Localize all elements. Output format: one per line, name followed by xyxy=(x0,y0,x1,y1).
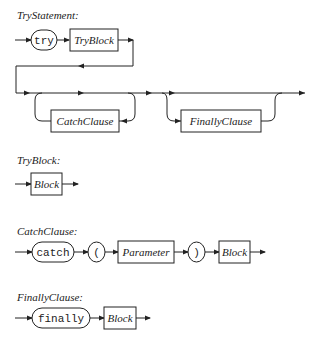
svg-text:): ) xyxy=(193,247,200,259)
svg-text:TryBlock: TryBlock xyxy=(74,34,115,46)
svg-text:try: try xyxy=(34,35,54,47)
rule-finallyclause: FinallyClause: finally Block xyxy=(15,291,150,329)
nonterminal-catchclause: CatchClause xyxy=(51,110,119,132)
svg-text:finally: finally xyxy=(38,313,85,325)
svg-text:CatchClause: CatchClause xyxy=(57,115,114,127)
nonterminal-block: Block xyxy=(219,241,250,263)
svg-text:Block: Block xyxy=(222,246,248,258)
svg-text:Parameter: Parameter xyxy=(121,246,170,258)
rule-title-finallyclause: FinallyClause: xyxy=(16,291,83,303)
terminal-close-paren: ) xyxy=(188,242,205,262)
rule-title-catchclause: CatchClause: xyxy=(17,225,78,237)
svg-text:(: ( xyxy=(93,247,100,259)
rule-try-statement: TryStatement: try TryBlock CatchClause xyxy=(15,9,305,132)
rule-title-try-statement: TryStatement: xyxy=(17,9,79,21)
syntax-diagram: TryStatement: try TryBlock CatchClause xyxy=(0,0,311,344)
nonterminal-block: Block xyxy=(31,173,62,195)
nonterminal-finallyclause: FinallyClause xyxy=(181,110,261,132)
svg-text:catch: catch xyxy=(36,247,69,259)
terminal-try: try xyxy=(31,30,57,50)
svg-text:FinallyClause: FinallyClause xyxy=(189,115,252,127)
rule-catchclause: CatchClause: catch ( Parameter ) Block xyxy=(15,225,265,263)
nonterminal-block: Block xyxy=(104,307,136,329)
nonterminal-parameter: Parameter xyxy=(118,241,174,263)
terminal-open-paren: ( xyxy=(88,242,105,262)
rule-title-tryblock: TryBlock: xyxy=(17,154,60,166)
nonterminal-tryblock: TryBlock xyxy=(70,29,118,51)
rule-tryblock: TryBlock: Block xyxy=(15,154,78,195)
svg-text:Block: Block xyxy=(107,312,133,324)
terminal-finally: finally xyxy=(32,308,90,328)
svg-text:Block: Block xyxy=(34,178,60,190)
terminal-catch: catch xyxy=(32,242,74,262)
